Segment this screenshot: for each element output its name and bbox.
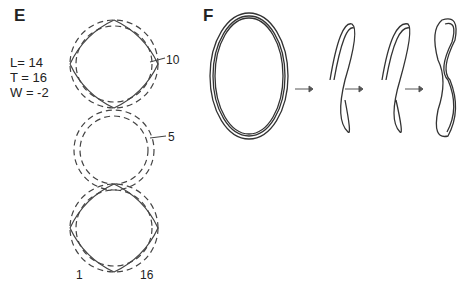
ribbon-transition (210, 13, 456, 139)
dna-figure-eight-helix (70, 20, 166, 272)
supercoil-illustration (0, 0, 468, 292)
arrows (295, 86, 423, 92)
